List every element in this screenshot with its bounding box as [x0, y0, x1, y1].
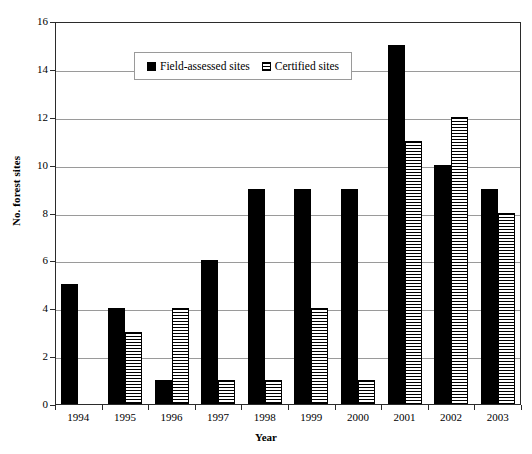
legend-item-field-assessed: Field-assessed sites — [147, 60, 250, 72]
x-tick-mark — [474, 405, 475, 410]
x-tick-mark — [102, 405, 103, 410]
x-tick-label: 2003 — [468, 412, 528, 423]
bar-field-assessed-sites-1995 — [108, 308, 125, 404]
bar-certified-sites-1996 — [172, 308, 189, 404]
x-tick-mark — [335, 405, 336, 410]
x-tick-mark — [195, 405, 196, 410]
y-tick-label: 16 — [20, 16, 48, 27]
y-tick-label: 12 — [20, 112, 48, 123]
bar-certified-sites-2001 — [405, 141, 422, 404]
y-axis-title: No. forest sites — [10, 131, 22, 251]
legend-swatch-solid-icon — [147, 62, 156, 71]
bar-certified-sites-2002 — [451, 117, 468, 404]
bar-certified-sites-1999 — [311, 308, 328, 404]
y-tick-label: 2 — [20, 351, 48, 362]
bar-certified-sites-2003 — [498, 213, 515, 405]
bar-field-assessed-sites-2003 — [481, 189, 498, 404]
y-tick-label: 14 — [20, 64, 48, 75]
bar-field-assessed-sites-2002 — [434, 165, 451, 404]
y-tick-label: 8 — [20, 208, 48, 219]
bar-certified-sites-1995 — [125, 332, 142, 404]
legend-label-certified: Certified sites — [275, 60, 339, 72]
x-tick-mark — [288, 405, 289, 410]
y-tick-label: 0 — [20, 399, 48, 410]
bar-chart: No. forest sites 0246810121416 Field-ass… — [0, 0, 532, 454]
bar-certified-sites-1998 — [265, 380, 282, 404]
x-tick-mark — [521, 405, 522, 410]
x-tick-mark — [381, 405, 382, 410]
legend-label-field-assessed: Field-assessed sites — [160, 60, 250, 72]
bar-field-assessed-sites-1998 — [248, 189, 265, 404]
x-tick-mark — [241, 405, 242, 410]
legend-item-certified: Certified sites — [262, 60, 339, 72]
y-tick-label: 4 — [20, 303, 48, 314]
bar-field-assessed-sites-2001 — [388, 45, 405, 404]
bar-field-assessed-sites-1994 — [61, 284, 78, 404]
plot-area: Field-assessed sites Certified sites — [55, 22, 521, 405]
x-tick-mark — [428, 405, 429, 410]
y-tick-label: 10 — [20, 160, 48, 171]
bar-field-assessed-sites-1997 — [201, 260, 218, 404]
x-tick-mark — [55, 405, 56, 410]
bar-field-assessed-sites-1999 — [294, 189, 311, 404]
bar-certified-sites-2000 — [358, 380, 375, 404]
y-tick-label: 6 — [20, 255, 48, 266]
legend: Field-assessed sites Certified sites — [134, 52, 352, 80]
bar-certified-sites-1997 — [218, 380, 235, 404]
bar-field-assessed-sites-2000 — [341, 189, 358, 404]
legend-swatch-hatch-icon — [262, 62, 271, 71]
x-axis-title: Year — [0, 431, 532, 443]
bar-field-assessed-sites-1996 — [155, 380, 172, 404]
x-tick-mark — [148, 405, 149, 410]
